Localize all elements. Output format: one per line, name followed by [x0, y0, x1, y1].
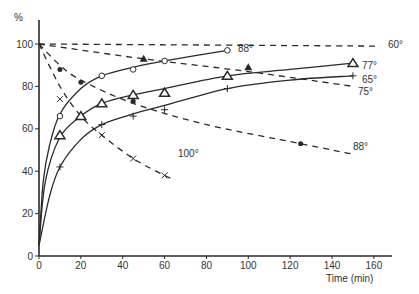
- filled-circle-marker: [131, 99, 136, 104]
- x-tick-label: 140: [324, 260, 341, 271]
- series-label: 100°: [178, 148, 199, 159]
- x-tick-label: 80: [201, 260, 213, 271]
- x-tick-label: 60: [159, 260, 171, 271]
- x-tick-label: 120: [282, 260, 299, 271]
- filled-circle-marker: [298, 141, 303, 146]
- series-label: 77°: [362, 60, 377, 71]
- series-label: 75°: [358, 86, 373, 97]
- x-marker: [99, 132, 105, 138]
- open-circle-marker: [162, 58, 168, 64]
- series-75-: [39, 44, 353, 86]
- series-labels: 60°75°88°100°88°77°65°: [178, 39, 403, 159]
- y-tick-label: 20: [22, 208, 34, 219]
- series-label: 65°: [362, 74, 377, 85]
- y-tick-label: 60: [22, 123, 34, 134]
- series-100-: [39, 44, 175, 180]
- series-label: 88°: [238, 43, 253, 54]
- filled-circle-marker: [78, 80, 83, 85]
- series-label: 88°: [353, 141, 368, 152]
- x-marker: [57, 96, 63, 102]
- x-marker: [162, 172, 168, 178]
- x-tick-label: 160: [366, 260, 383, 271]
- series-label: 60°: [388, 39, 403, 50]
- axes: 020406080100120140160020406080100: [16, 20, 392, 271]
- series-88-solid-: [39, 48, 230, 246]
- x-tick-label: 40: [117, 260, 129, 271]
- filled-triangle-marker: [244, 63, 252, 70]
- plus-marker: [98, 121, 105, 128]
- y-tick-label: 40: [22, 166, 34, 177]
- plus-marker: [224, 85, 231, 92]
- series-88-dashed-: [39, 44, 353, 154]
- triangle-marker: [97, 99, 107, 107]
- y-axis-label: %: [14, 12, 23, 23]
- triangle-marker: [348, 59, 358, 67]
- y-tick-label: 80: [22, 81, 34, 92]
- open-circle-marker: [130, 67, 136, 73]
- open-circle-marker: [57, 113, 63, 119]
- x-tick-label: 0: [36, 260, 42, 271]
- plus-marker: [349, 72, 356, 79]
- filled-circle-marker: [57, 67, 62, 72]
- x-axis-label: Time (min): [326, 273, 373, 284]
- y-tick-label: 100: [16, 39, 33, 50]
- plus-marker: [56, 163, 63, 170]
- y-tick-label: 0: [27, 251, 33, 262]
- x-tick-label: 20: [75, 260, 87, 271]
- series-60-: [39, 44, 380, 46]
- x-marker: [130, 155, 136, 161]
- open-circle-marker: [225, 48, 231, 54]
- chart: 020406080100120140160020406080100 60°75°…: [0, 0, 419, 294]
- series: [39, 44, 380, 245]
- x-tick-label: 100: [240, 260, 257, 271]
- open-circle-marker: [99, 73, 105, 79]
